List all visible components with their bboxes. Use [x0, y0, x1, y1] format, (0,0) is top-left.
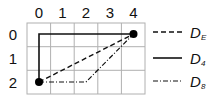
row-label-0: 0 [9, 26, 17, 43]
grid-diagram: 0 1 2 3 4 0 1 2 D E D 4 D 8 [0, 0, 217, 100]
path-de-dashed [39, 34, 134, 82]
col-label-2: 2 [82, 4, 90, 21]
point-end [130, 30, 138, 38]
legend: D E D 4 D 8 [153, 24, 207, 91]
col-label-3: 3 [106, 4, 114, 21]
col-label-1: 1 [58, 4, 66, 21]
legend-label-de: D [190, 24, 201, 41]
legend-sub-d4: 4 [201, 59, 206, 68]
point-start [35, 78, 43, 86]
legend-label-d8: D [190, 73, 201, 90]
legend-sub-d8: 8 [201, 82, 206, 91]
row-label-1: 1 [9, 50, 17, 67]
col-label-4: 4 [129, 4, 137, 21]
legend-label-d4: D [190, 50, 201, 67]
legend-sub-de: E [201, 33, 207, 42]
row-label-2: 2 [9, 74, 17, 91]
col-label-0: 0 [35, 4, 43, 21]
